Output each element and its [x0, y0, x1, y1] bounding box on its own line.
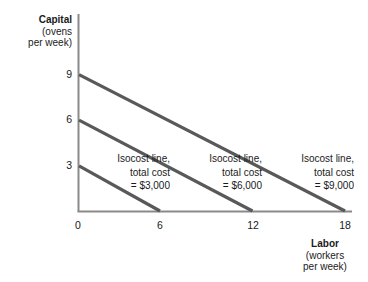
x-tick-label-0: 0 [71, 220, 85, 232]
isocost-annotation-6000-line2: total cost [158, 166, 262, 180]
isocost-annotation-6000-line1: Isocost line, [158, 152, 262, 166]
y-axis-title-sub-line1: (ovens [6, 26, 72, 38]
x-tick-label-6: 6 [153, 220, 167, 232]
x-axis-title-sub-line2: per week) [288, 261, 362, 273]
x-axis-title-sub-line1: (workers [288, 250, 362, 262]
x-tick-label-12: 12 [245, 220, 261, 232]
isocost-lines-chart: Capital (ovens per week) Labor (workers … [0, 0, 368, 282]
y-axis-title-main: Capital [6, 14, 72, 26]
isocost-annotation-9000-line1: Isocost line, [250, 152, 354, 166]
y-axis-title: Capital (ovens per week) [6, 14, 72, 49]
isocost-annotation-9000-line3: = $9,000 [250, 179, 354, 193]
isocost-annotation-9000: Isocost line, total cost = $9,000 [250, 152, 354, 193]
y-axis-title-sub-line2: per week) [6, 37, 72, 49]
y-tick-label-9: 9 [58, 69, 72, 81]
x-axis-title: Labor (workers per week) [288, 238, 362, 273]
isocost-annotation-6000: Isocost line, total cost = $6,000 [158, 152, 262, 193]
isocost-annotation-3000-line1: Isocost line, [66, 152, 170, 166]
isocost-annotation-9000-line2: total cost [250, 166, 354, 180]
y-tick-label-6: 6 [58, 114, 72, 126]
x-axis-title-main: Labor [288, 238, 362, 250]
isocost-annotation-6000-line3: = $6,000 [158, 179, 262, 193]
isocost-annotation-3000: Isocost line, total cost = $3,000 [66, 152, 170, 193]
isocost-annotation-3000-line3: = $3,000 [66, 179, 170, 193]
x-tick-label-18: 18 [337, 220, 353, 232]
isocost-annotation-3000-line2: total cost [66, 166, 170, 180]
